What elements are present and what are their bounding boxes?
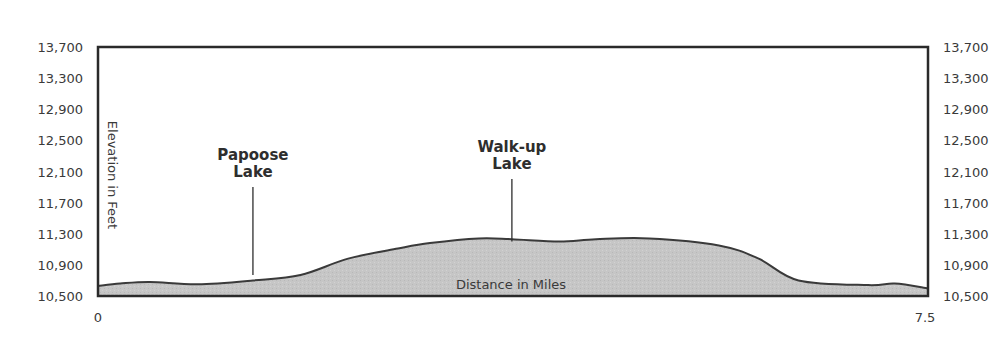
y-tick-label-right: 10,900 <box>943 258 989 273</box>
y-tick-label-right: 12,900 <box>943 102 989 117</box>
y-tick-label-left: 10,900 <box>38 258 84 273</box>
x-tick-end: 7.5 <box>915 310 936 325</box>
y-tick-label-right: 11,300 <box>943 227 989 242</box>
y-tick-label-left: 11,300 <box>38 227 84 242</box>
y-tick-label-left: 13,700 <box>38 40 84 55</box>
annotation-label: Lake <box>233 163 272 181</box>
y-tick-label-left: 12,500 <box>38 133 84 148</box>
y-tick-label-right: 11,700 <box>943 196 989 211</box>
y-axis-right: 13,70013,30012,90012,50012,10011,70011,3… <box>943 40 989 304</box>
annotation-label: Walk-up <box>477 138 546 156</box>
y-tick-label-right: 12,500 <box>943 133 989 148</box>
y-tick-label-right: 12,100 <box>943 165 989 180</box>
elevation-profile-chart: PapooseLakeWalk-upLake 13,70013,30012,90… <box>0 0 1007 346</box>
y-tick-label-left: 12,900 <box>38 102 84 117</box>
y-axis-label: Elevation in Feet <box>105 121 120 229</box>
y-axis-left: 13,70013,30012,90012,50012,10011,70011,3… <box>38 40 84 304</box>
y-tick-label-left: 11,700 <box>38 196 84 211</box>
y-tick-label-left: 12,100 <box>38 165 84 180</box>
y-tick-label-left: 10,500 <box>38 289 84 304</box>
annotation-label: Lake <box>492 155 531 173</box>
y-tick-label-right: 10,500 <box>943 289 989 304</box>
y-tick-label-right: 13,700 <box>943 40 989 55</box>
y-tick-label-right: 13,300 <box>943 71 989 86</box>
x-axis-label: Distance in Miles <box>456 277 566 292</box>
y-tick-label-left: 13,300 <box>38 71 84 86</box>
x-tick-start: 0 <box>94 310 102 325</box>
annotation-label: Papoose <box>217 146 288 164</box>
